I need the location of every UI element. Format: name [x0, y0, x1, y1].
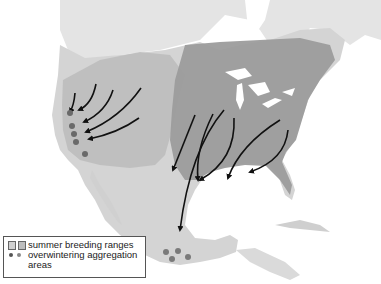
dot-dark-icon	[9, 253, 13, 257]
dot-light-icon	[17, 253, 21, 257]
breeding-range-east-swatch-icon	[18, 241, 26, 250]
legend-label-overwintering: overwintering aggregation areas	[28, 250, 141, 270]
breeding-range-west-swatch-icon	[8, 241, 16, 250]
land-central-america	[236, 248, 300, 280]
map-legend: summer breeding ranges overwintering agg…	[3, 236, 146, 278]
land-cuba	[275, 220, 330, 232]
legend-item-overwintering: overwintering aggregation areas	[8, 250, 141, 270]
